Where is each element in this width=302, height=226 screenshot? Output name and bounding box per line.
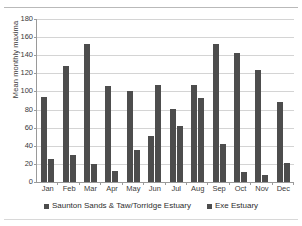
bar	[105, 86, 111, 182]
legend-swatch-icon	[207, 204, 212, 209]
legend-label: Saunton Sands & Taw/Torridge Estuary	[52, 202, 191, 210]
bar-group	[208, 19, 229, 182]
y-tick-label: 160	[20, 33, 33, 41]
bar	[198, 98, 204, 182]
y-tick-label: 120	[20, 70, 33, 78]
y-tick-mark	[34, 182, 37, 183]
bar	[234, 53, 240, 182]
x-axis-label: Sep	[208, 185, 229, 193]
bar	[277, 102, 283, 182]
bar-group	[101, 19, 122, 182]
bar	[112, 171, 118, 182]
bar-group	[80, 19, 101, 182]
bar	[155, 85, 161, 182]
bar	[255, 70, 261, 182]
bar-group	[144, 19, 165, 182]
y-tick-label: 40	[25, 142, 33, 150]
top-divider	[4, 7, 298, 8]
bar	[262, 175, 268, 182]
bar	[70, 155, 76, 182]
x-axis-label: May	[123, 185, 144, 193]
legend-item[interactable]: Saunton Sands & Taw/Torridge Estuary	[44, 202, 191, 210]
bar	[284, 163, 290, 182]
legend-label: Exe Estuary	[215, 202, 258, 210]
x-axis-label: Dec	[273, 185, 294, 193]
bar-group	[273, 19, 294, 182]
bar-group	[251, 19, 272, 182]
bars-layer	[37, 19, 294, 182]
bar	[84, 44, 90, 182]
x-axis-label: Feb	[58, 185, 79, 193]
y-tick-label: 100	[20, 88, 33, 96]
bar	[220, 144, 226, 182]
x-axis-labels: JanFebMarAprMayJunJulAugSepOctNovDec	[37, 185, 294, 193]
bar	[213, 44, 219, 182]
bar-group	[187, 19, 208, 182]
x-axis-label: Jul	[166, 185, 187, 193]
x-axis-label: Aug	[187, 185, 208, 193]
bar	[241, 172, 247, 182]
bar	[48, 159, 54, 182]
x-axis-label: Apr	[101, 185, 122, 193]
x-axis-label: Jun	[144, 185, 165, 193]
bar-group	[123, 19, 144, 182]
bar	[191, 85, 197, 182]
bottom-divider	[4, 219, 298, 220]
x-axis-label: Jan	[37, 185, 58, 193]
x-axis-label: Oct	[230, 185, 251, 193]
plot-wrapper: 020406080100120140160180	[36, 19, 294, 182]
bar-group	[37, 19, 58, 182]
y-tick-label: 180	[20, 15, 33, 23]
bar	[148, 136, 154, 182]
y-tick-label: 0	[29, 178, 33, 186]
bar-group	[58, 19, 79, 182]
x-axis-label: Nov	[251, 185, 272, 193]
x-axis-label: Mar	[80, 185, 101, 193]
bar-chart: Mean monthly maxima 02040608010012014016…	[0, 0, 302, 226]
bar	[91, 164, 97, 182]
bar	[63, 66, 69, 182]
bar	[177, 126, 183, 182]
bar	[134, 150, 140, 182]
chart-legend: Saunton Sands & Taw/Torridge EstuaryExe …	[0, 202, 302, 210]
y-axis-title: Mean monthly maxima	[11, 0, 20, 130]
y-tick-label: 80	[25, 106, 33, 114]
bar	[170, 109, 176, 182]
y-tick-label: 60	[25, 124, 33, 132]
y-tick-label: 20	[25, 160, 33, 168]
bar-group	[230, 19, 251, 182]
bar	[127, 91, 133, 182]
bar	[41, 97, 47, 182]
legend-item[interactable]: Exe Estuary	[207, 202, 258, 210]
bar-group	[166, 19, 187, 182]
legend-swatch-icon	[44, 204, 49, 209]
y-tick-label: 140	[20, 51, 33, 59]
